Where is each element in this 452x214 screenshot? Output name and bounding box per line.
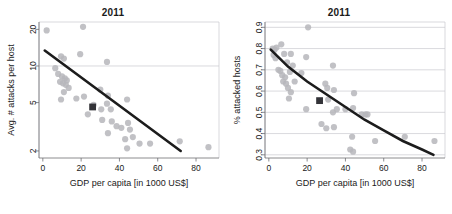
- data-point: [105, 130, 111, 136]
- x-tick-label: 60: [153, 163, 163, 173]
- data-point: [334, 106, 340, 112]
- data-point: [104, 101, 110, 107]
- x-tick-label: 0: [40, 163, 45, 173]
- data-point: [109, 118, 115, 124]
- y-tick-label: 0.9: [254, 21, 264, 33]
- y-tick-label: 10: [28, 61, 38, 71]
- data-point: [108, 106, 114, 112]
- x-tick-label: 60: [379, 163, 389, 173]
- y-tick-label: 0.3: [254, 149, 264, 161]
- data-point: [66, 85, 72, 91]
- data-point: [303, 54, 309, 60]
- y-tick-label: 2: [28, 148, 38, 153]
- data-point: [205, 144, 211, 150]
- data-point: [278, 41, 284, 47]
- y-tick-label: 0.8: [254, 42, 264, 54]
- x-axis-title: GDP per capita [in 1000 US$]: [296, 178, 414, 188]
- data-point: [318, 121, 324, 127]
- data-point: [98, 106, 104, 112]
- aggregate-marker: [89, 104, 96, 111]
- data-point: [305, 24, 311, 30]
- y-tick-label: 0.5: [254, 106, 264, 118]
- x-tick-label: 20: [302, 163, 312, 173]
- data-point: [118, 125, 124, 131]
- data-point: [323, 125, 329, 131]
- y-axis-title: Avg. # attacks per host: [6, 44, 16, 136]
- data-point: [364, 111, 370, 117]
- data-point: [288, 51, 294, 57]
- data-point: [77, 51, 83, 57]
- data-point: [288, 89, 294, 95]
- data-point: [431, 138, 437, 144]
- data-point: [331, 124, 337, 130]
- data-point: [127, 126, 133, 132]
- data-point: [80, 24, 86, 30]
- y-tick-label: 20: [28, 24, 38, 34]
- data-point-group: [270, 24, 438, 155]
- data-point: [286, 95, 292, 101]
- data-point: [324, 85, 330, 91]
- scatter-plot-figure: 2011 020406080251020GDP per capita [in 1…: [0, 0, 452, 214]
- y-tick-label: 0.7: [254, 64, 264, 76]
- data-point: [99, 117, 105, 123]
- x-tick-label: 20: [76, 163, 86, 173]
- trend-line: [45, 51, 181, 151]
- data-point-group: [44, 24, 212, 152]
- data-point: [73, 95, 79, 101]
- chart-panel-left: 2011 020406080251020GDP per capita [in 1…: [0, 0, 226, 214]
- plot-area-right: 0204060800.30.40.50.60.70.80.9GDP per ca…: [226, 0, 452, 214]
- x-tick-label: 80: [191, 163, 201, 173]
- data-point: [58, 96, 64, 102]
- data-point: [281, 51, 287, 57]
- y-axis-title: % attacked hosts: [232, 55, 242, 124]
- data-point: [85, 111, 91, 117]
- data-point: [303, 106, 309, 112]
- x-axis-title: GDP per capita [in 1000 US$]: [70, 178, 188, 188]
- data-point: [136, 140, 142, 146]
- y-tick-label: 5: [28, 100, 38, 105]
- data-point: [124, 145, 130, 151]
- data-point: [104, 59, 110, 65]
- aggregate-marker: [316, 97, 323, 104]
- data-point: [130, 134, 136, 140]
- y-tick-label: 0.4: [254, 127, 264, 139]
- data-point: [350, 149, 356, 155]
- data-point: [61, 55, 67, 61]
- data-point: [402, 134, 408, 140]
- data-point: [44, 27, 50, 33]
- data-point: [372, 138, 378, 144]
- data-point: [52, 65, 58, 71]
- data-point: [349, 134, 355, 140]
- data-point: [147, 140, 153, 146]
- data-point: [61, 89, 67, 95]
- data-point: [330, 62, 336, 68]
- data-point: [125, 120, 131, 126]
- chart-panel-right: 2011 0204060800.30.40.50.60.70.80.9GDP p…: [226, 0, 452, 214]
- y-tick-label: 0.6: [254, 85, 264, 97]
- plot-area-left: 020406080251020GDP per capita [in 1000 U…: [0, 0, 226, 214]
- data-point: [122, 136, 128, 142]
- data-point: [177, 138, 183, 144]
- data-point: [81, 93, 87, 99]
- data-point: [351, 90, 357, 96]
- data-point: [292, 78, 298, 84]
- x-tick-label: 0: [266, 163, 271, 173]
- x-tick-label: 40: [341, 163, 351, 173]
- data-point: [331, 87, 337, 93]
- data-point: [124, 96, 130, 102]
- x-tick-label: 40: [115, 163, 125, 173]
- x-tick-label: 80: [417, 163, 427, 173]
